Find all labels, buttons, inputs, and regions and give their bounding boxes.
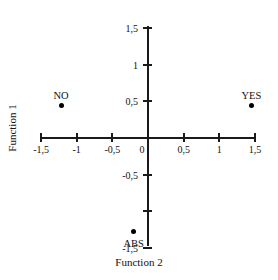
y-tick-label: 0,5: [104, 96, 138, 107]
data-point: [59, 103, 64, 108]
y-axis-title: Function 1: [6, 92, 18, 164]
x-tick-mark: [111, 133, 113, 142]
data-point-label: YES: [241, 90, 261, 101]
scatter-plot: -1,5-1-0,500,511,51,510,5-0,5-1,5 NOYESA…: [0, 0, 278, 280]
x-tick-label: 1: [217, 144, 222, 155]
x-tick-mark: [40, 133, 42, 142]
x-tick-label: 0,5: [177, 144, 190, 155]
x-tick-label: -0,5: [104, 144, 120, 155]
x-tick-label: -1,5: [33, 144, 49, 155]
data-point: [249, 103, 254, 108]
x-axis-title: Function 2: [0, 256, 278, 268]
data-point-label: ABS: [124, 238, 144, 249]
x-tick-label: 1,5: [249, 144, 262, 155]
y-tick-mark: [143, 27, 152, 29]
y-tick-label: -0,5: [104, 169, 138, 180]
data-point-label: NO: [53, 90, 68, 101]
x-tick-mark: [218, 133, 220, 142]
y-tick-mark: [143, 247, 152, 249]
y-tick-mark: [143, 174, 152, 176]
y-tick-mark: [143, 64, 152, 66]
y-axis-line: [147, 26, 149, 246]
x-tick-mark: [183, 133, 185, 142]
y-tick-mark: [143, 210, 152, 212]
data-point: [131, 229, 136, 234]
y-tick-label: 1: [104, 59, 138, 70]
x-tick-label: -1: [73, 144, 81, 155]
y-tick-label: 1,5: [104, 23, 138, 34]
x-tick-mark: [76, 133, 78, 142]
x-tick-mark: [254, 133, 256, 142]
y-tick-mark: [143, 100, 152, 102]
x-tick-label: 0: [140, 144, 145, 155]
